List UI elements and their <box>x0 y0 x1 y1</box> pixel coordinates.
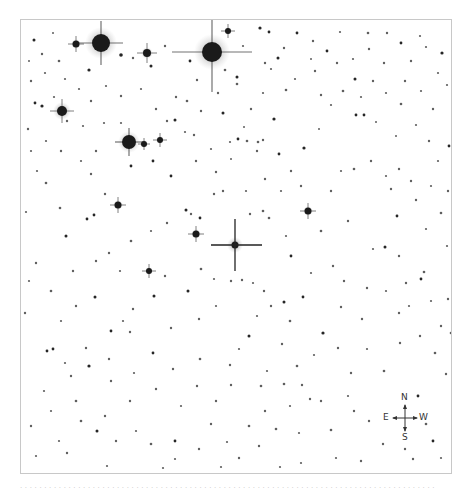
star <box>262 92 264 94</box>
star <box>220 466 222 468</box>
star <box>262 139 264 141</box>
star <box>318 128 320 130</box>
star <box>302 296 305 299</box>
star <box>53 96 55 98</box>
bright-star <box>68 36 84 52</box>
compass-south-label: S <box>402 433 408 442</box>
star <box>59 207 62 210</box>
star <box>190 213 192 215</box>
star <box>339 31 341 33</box>
star <box>174 440 177 443</box>
star <box>28 280 30 282</box>
star <box>198 448 200 450</box>
star <box>200 110 202 112</box>
star <box>321 331 324 334</box>
star <box>64 362 66 364</box>
star <box>164 275 166 277</box>
star <box>296 32 299 35</box>
star <box>290 255 293 258</box>
star <box>410 60 412 62</box>
star <box>340 170 342 172</box>
star <box>398 255 400 257</box>
star <box>408 305 410 307</box>
star <box>120 122 122 124</box>
star <box>314 70 316 72</box>
star <box>330 104 332 106</box>
star <box>425 46 427 48</box>
star <box>30 425 32 427</box>
star <box>446 84 448 86</box>
star <box>258 26 261 29</box>
star <box>272 117 275 120</box>
star <box>224 69 227 72</box>
star <box>87 68 90 71</box>
star <box>257 141 260 144</box>
star <box>200 268 203 271</box>
star <box>283 47 285 49</box>
star <box>268 31 271 34</box>
star <box>385 92 387 94</box>
star <box>347 395 349 397</box>
star <box>230 280 232 282</box>
star <box>226 441 228 443</box>
star <box>108 252 110 254</box>
star <box>368 420 370 422</box>
star <box>446 245 448 247</box>
star <box>66 452 68 454</box>
star <box>264 410 266 412</box>
star <box>281 343 283 345</box>
star <box>104 193 106 195</box>
star <box>196 385 198 387</box>
star <box>217 92 219 94</box>
star <box>82 125 84 127</box>
star <box>320 94 322 96</box>
star <box>415 124 417 126</box>
bright-star <box>79 21 123 65</box>
star <box>385 290 387 292</box>
star <box>270 68 272 70</box>
star <box>440 212 443 215</box>
star <box>120 95 122 97</box>
star <box>75 400 78 403</box>
star <box>241 279 243 281</box>
star <box>110 380 112 382</box>
star <box>425 228 427 230</box>
star <box>193 134 195 136</box>
star <box>350 372 352 374</box>
star <box>352 58 354 60</box>
star <box>155 108 157 110</box>
star <box>283 301 286 304</box>
star <box>87 364 90 367</box>
star <box>336 62 338 64</box>
star <box>330 190 332 192</box>
star <box>372 80 374 82</box>
star <box>386 32 388 34</box>
star <box>150 443 153 446</box>
star <box>268 217 271 220</box>
star <box>354 78 357 81</box>
star <box>353 168 356 171</box>
star <box>337 347 339 349</box>
star <box>363 114 366 117</box>
star <box>195 160 197 162</box>
star <box>106 465 108 467</box>
star <box>440 51 443 54</box>
star <box>419 35 421 37</box>
star <box>196 79 198 81</box>
compass-north-label: N <box>401 393 408 402</box>
star <box>396 215 399 218</box>
star <box>64 78 66 80</box>
star <box>447 298 449 300</box>
star <box>300 185 302 187</box>
star <box>41 53 43 55</box>
star <box>313 354 315 356</box>
star <box>25 211 27 213</box>
star <box>152 160 155 163</box>
target-crosshair <box>211 219 262 271</box>
star <box>85 347 87 349</box>
star <box>264 62 266 64</box>
star <box>434 352 437 355</box>
star <box>280 190 282 192</box>
star <box>96 430 99 433</box>
star <box>65 235 68 238</box>
